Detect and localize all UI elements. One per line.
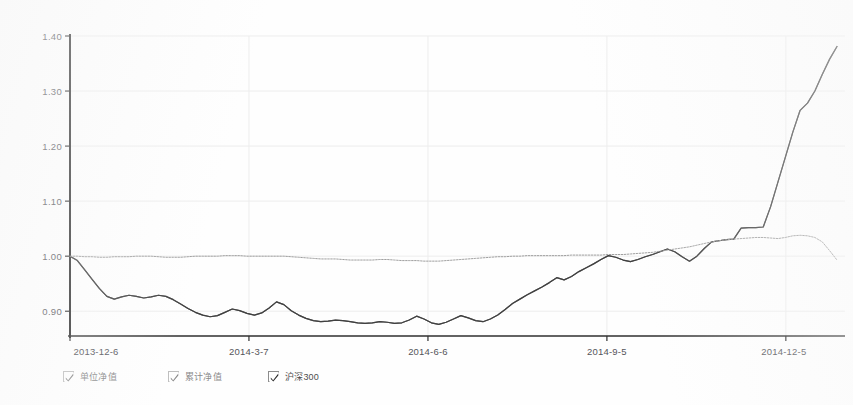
y-tick-label: 1.00 <box>22 251 62 262</box>
y-tick-label: 1.30 <box>22 86 62 97</box>
x-tick-label: 2014-3-7 <box>229 346 269 357</box>
legend-label: 单位净值 <box>80 370 117 383</box>
series-line-2 <box>70 235 837 261</box>
legend-item-0[interactable]: 单位净值 <box>63 368 117 384</box>
legend-checkbox-icon[interactable] <box>63 371 74 382</box>
legend-item-2[interactable]: 沪深300 <box>268 368 319 384</box>
x-tick-label: 2014-12-5 <box>761 346 806 357</box>
legend-checkbox-icon[interactable] <box>168 371 179 382</box>
x-tick-label: 2014-9-5 <box>587 346 627 357</box>
legend-label: 累计净值 <box>185 370 222 383</box>
chart-plot-area <box>0 0 853 405</box>
y-tick-label: 1.40 <box>22 31 62 42</box>
series-line-0 <box>70 46 837 324</box>
net-value-chart: 1.401.301.201.101.000.90 2013-12-62014-3… <box>0 0 853 405</box>
legend-label: 沪深300 <box>285 370 319 383</box>
y-tick-label: 1.20 <box>22 141 62 152</box>
y-tick-label: 1.10 <box>22 196 62 207</box>
y-tick-label: 0.90 <box>22 306 62 317</box>
chart-legend: 单位净值累计净值沪深300 <box>0 366 853 390</box>
x-tick-label: 2013-12-6 <box>73 346 118 357</box>
series-line-1 <box>70 46 837 324</box>
legend-item-1[interactable]: 累计净值 <box>168 368 222 384</box>
x-tick-label: 2014-6-6 <box>408 346 448 357</box>
legend-checkbox-icon[interactable] <box>268 371 279 382</box>
